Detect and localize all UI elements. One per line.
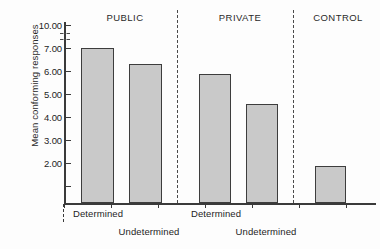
category-label-public-undetermined: Undetermined: [106, 226, 192, 237]
x-tick-6: [346, 203, 347, 208]
bar-control: [315, 166, 346, 203]
y-tick-label-2: 2.00: [20, 158, 62, 169]
bar-public-undetermined: [129, 64, 162, 203]
y-tick-label-6: 6.00: [20, 66, 62, 77]
group-label-public: PUBLIC: [75, 12, 175, 23]
bar-chart: Mean conforming responses 10.00 7.00 6.0…: [0, 0, 380, 249]
axis-break-mark-lower: [60, 39, 70, 40]
y-tick-4: [64, 117, 71, 118]
bar-private-undetermined: [246, 104, 278, 203]
axis-break-mark-upper: [60, 33, 70, 34]
y-tick-5: [64, 94, 71, 95]
x-tick-2: [158, 203, 159, 208]
bar-private-determined: [199, 74, 231, 203]
group-label-control: CONTROL: [300, 12, 376, 23]
category-label-private-undetermined: Undetermined: [223, 226, 309, 237]
y-tick-minor: [64, 186, 71, 187]
y-tick-7: [64, 48, 71, 49]
y-tick-label-10: 10.00: [20, 20, 62, 31]
group-divider-public-private: [177, 10, 178, 203]
y-tick-6: [64, 71, 71, 72]
bar-public-determined: [81, 48, 114, 203]
y-tick-label-4: 4.00: [20, 112, 62, 123]
y-tick-label-3: 3.00: [20, 135, 62, 146]
y-tick-3: [64, 140, 71, 141]
y-tick-2: [64, 163, 71, 164]
y-tick-label-5: 5.00: [20, 89, 62, 100]
x-tick-5: [299, 203, 300, 208]
group-divider-private-control: [293, 10, 294, 203]
y-tick-label-7: 7.00: [20, 43, 62, 54]
category-label-public-determined: Determined: [60, 208, 136, 219]
y-tick-10: [64, 25, 71, 26]
category-label-private-determined: Determined: [178, 208, 254, 219]
group-label-private: PRIVATE: [190, 12, 290, 23]
